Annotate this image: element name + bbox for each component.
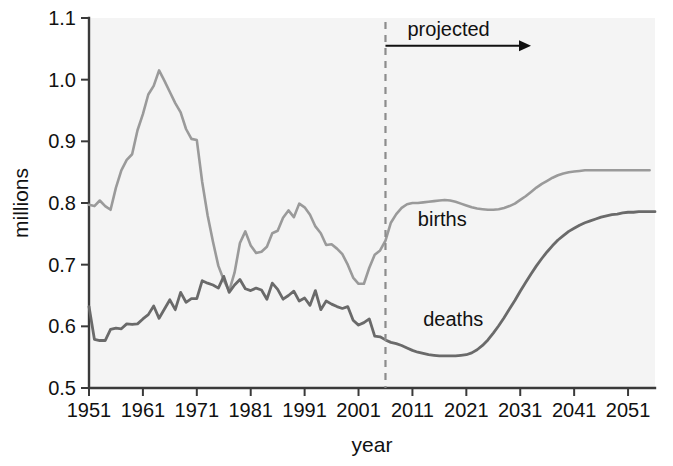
y-tick-label: 1.1	[48, 7, 76, 29]
x-axis-tick-labels: 1951196119711981199120012011202120312041…	[67, 399, 651, 421]
y-tick-label: 0.6	[48, 315, 76, 337]
series-label-births: births	[418, 208, 467, 230]
y-axis-title: millions	[9, 168, 32, 238]
x-tick-label: 1951	[67, 399, 112, 421]
x-tick-label: 2031	[498, 399, 543, 421]
population-births-deaths-line-chart: 0.50.60.70.80.91.01.1 195119611971198119…	[0, 0, 673, 466]
x-axis-title: year	[352, 433, 393, 456]
x-tick-label: 2051	[606, 399, 651, 421]
plot-area-background	[89, 18, 655, 388]
x-tick-label: 1991	[282, 399, 327, 421]
y-tick-label: 1.0	[48, 69, 76, 91]
x-tick-label: 2001	[336, 399, 381, 421]
y-tick-label: 0.9	[48, 130, 76, 152]
x-tick-label: 1971	[175, 399, 220, 421]
x-tick-label: 1961	[121, 399, 166, 421]
y-tick-label: 0.5	[48, 377, 76, 399]
x-tick-label: 2021	[444, 399, 489, 421]
series-label-deaths: deaths	[423, 308, 483, 330]
y-tick-label: 0.8	[48, 192, 76, 214]
x-tick-label: 2011	[391, 399, 434, 421]
x-tick-label: 1981	[228, 399, 273, 421]
x-tick-label: 2041	[552, 399, 597, 421]
y-tick-label: 0.7	[48, 254, 76, 276]
chart-figure: 0.50.60.70.80.91.01.1 195119611971198119…	[0, 0, 673, 466]
projected-annotation-label: projected	[407, 18, 489, 40]
